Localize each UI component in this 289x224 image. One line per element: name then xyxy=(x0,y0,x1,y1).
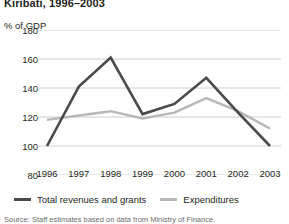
series-line xyxy=(47,58,270,146)
legend-item-revenues: Total revenues and grants xyxy=(14,194,146,205)
series-lines xyxy=(47,58,270,146)
x-tick-label: 2001 xyxy=(196,168,217,179)
chart-figure: Kiribati, 1996–2003 % of GDP 18016014012… xyxy=(0,0,289,224)
plot-area xyxy=(36,30,281,175)
x-tick-label: 2000 xyxy=(164,168,185,179)
legend-swatch-expenditures xyxy=(160,198,177,201)
chart-legend: Total revenues and grants Expenditures xyxy=(14,194,253,205)
x-tick-label: 1999 xyxy=(132,168,153,179)
y-axis-tick-labels: 18016014012010080 xyxy=(0,0,40,180)
gridlines xyxy=(36,30,281,175)
x-tick-label: 1996 xyxy=(36,168,57,179)
chart-svg xyxy=(36,30,281,175)
legend-swatch-revenues xyxy=(14,198,31,201)
source-note: Source: Staff estimates based on data fr… xyxy=(4,215,215,224)
series-line xyxy=(47,98,270,128)
x-axis-tick-labels: 19961997199819992000200120022003 xyxy=(0,168,289,184)
x-tick-label: 2003 xyxy=(259,168,280,179)
x-tick-label: 2002 xyxy=(228,168,249,179)
legend-label-revenues: Total revenues and grants xyxy=(37,194,146,205)
legend-item-expenditures: Expenditures xyxy=(160,194,238,205)
legend-label-expenditures: Expenditures xyxy=(183,194,238,205)
x-tick-label: 1997 xyxy=(68,168,89,179)
x-tick-label: 1998 xyxy=(100,168,121,179)
